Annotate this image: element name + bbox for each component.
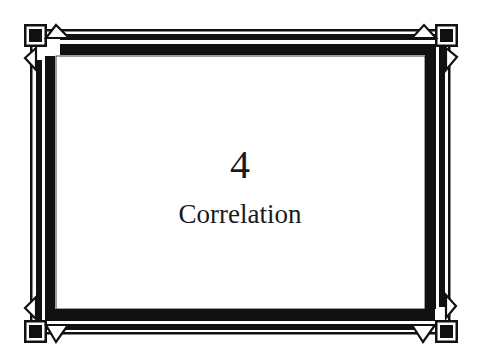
chapter-number: 4 (230, 145, 250, 185)
corner-box-bottom-left (24, 320, 47, 343)
left-thick-band (45, 56, 55, 320)
triangle-bottom-right-right (446, 295, 456, 318)
right-mid-band (439, 47, 445, 307)
right-thick-band (425, 47, 436, 309)
bottom-mid-band (47, 324, 422, 330)
top-thin-line (47, 29, 435, 32)
corner-box-top-right (435, 24, 458, 47)
top-mid-band (60, 34, 435, 40)
right-thin-line (448, 47, 451, 320)
left-thin-line (30, 47, 33, 320)
triangle-top-right-right (446, 48, 457, 70)
corner-box-top-left (24, 24, 47, 47)
corner-box-bottom-right (435, 320, 458, 343)
chapter-heading: 4 Correlation (56, 56, 424, 308)
chapter-title: Correlation (179, 201, 302, 228)
bottom-thin-line (47, 332, 435, 335)
bottom-thick-band (47, 309, 435, 321)
top-thick-band (60, 44, 435, 55)
left-mid-band (36, 60, 42, 320)
